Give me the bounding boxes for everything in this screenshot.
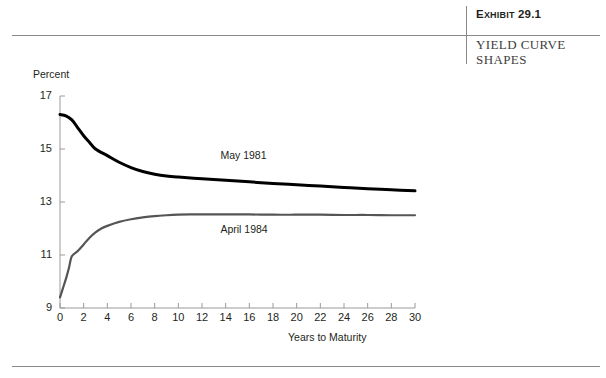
x-tick-label: 28 <box>381 311 401 323</box>
exhibit-figure: EXHIBIT 29.1 YIELD CURVE SHAPES Percent … <box>0 0 606 378</box>
y-tick-label: 15 <box>30 142 52 154</box>
x-tick-label: 8 <box>145 311 165 323</box>
x-tick-label: 6 <box>121 311 141 323</box>
footer-rule <box>12 366 600 367</box>
x-tick-label: 18 <box>263 311 283 323</box>
chart-series <box>60 115 415 298</box>
x-tick-label: 2 <box>74 311 94 323</box>
series-label-2: April 1984 <box>220 223 267 235</box>
chart-axes <box>60 96 415 308</box>
x-tick-label: 12 <box>192 311 212 323</box>
x-tick-label: 16 <box>239 311 259 323</box>
x-axis-label: Years to Maturity <box>288 331 366 343</box>
x-tick-label: 30 <box>405 311 425 323</box>
x-tick-label: 24 <box>334 311 354 323</box>
x-tick-label: 10 <box>168 311 188 323</box>
x-tick-label: 22 <box>310 311 330 323</box>
y-tick-label: 9 <box>30 301 52 313</box>
x-tick-label: 4 <box>97 311 117 323</box>
x-tick-label: 0 <box>50 311 70 323</box>
y-axis-label: Percent <box>33 68 69 80</box>
y-tick-label: 11 <box>30 248 52 260</box>
y-tick-label: 17 <box>30 89 52 101</box>
x-tick-label: 20 <box>287 311 307 323</box>
x-tick-label: 14 <box>216 311 236 323</box>
series-label-1: May 1981 <box>220 149 266 161</box>
y-tick-label: 13 <box>30 195 52 207</box>
x-tick-label: 26 <box>358 311 378 323</box>
